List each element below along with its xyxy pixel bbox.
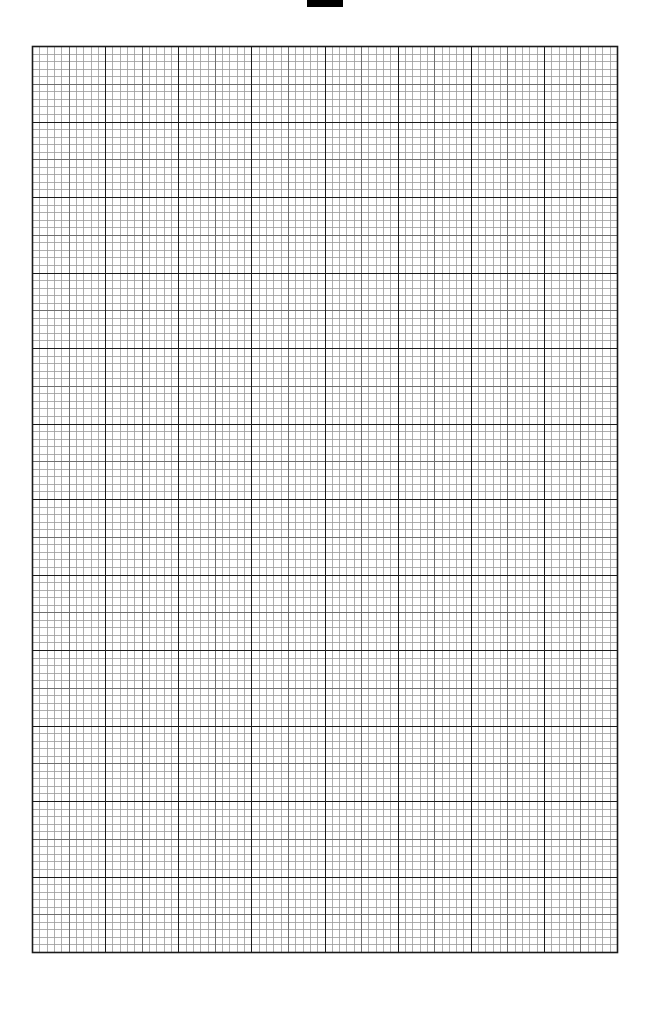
graph-paper-grid xyxy=(0,0,648,1009)
